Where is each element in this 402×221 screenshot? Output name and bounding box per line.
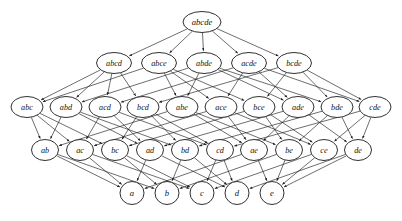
node-ce[interactable]: ce [311, 140, 338, 161]
edge-ade-to-de [309, 115, 347, 142]
node-label-ce: ce [320, 146, 328, 155]
node-ad[interactable]: ad [137, 140, 164, 161]
edge-bcde-to-bce [267, 73, 286, 97]
edge-abcde-to-abcd [129, 29, 187, 56]
node-label-ab: ab [41, 146, 49, 155]
node-label-acd: acd [99, 103, 112, 112]
edge-cde-to-de [363, 117, 371, 138]
node-label-be: be [285, 146, 293, 155]
node-e[interactable]: e [260, 182, 284, 205]
edge-bc-to-b [124, 158, 156, 185]
edge-bcde-to-bde [303, 72, 327, 97]
node-label-abde: abde [196, 59, 212, 68]
node-label-bcde: bcde [286, 59, 302, 68]
edge-abc-to-ac [37, 115, 69, 141]
edge-abcd-to-bcd [121, 73, 136, 96]
node-b[interactable]: b [155, 182, 179, 205]
edge-bde-to-be [299, 116, 327, 141]
node-d[interactable]: d [225, 182, 249, 205]
edge-bce-to-ce [270, 115, 312, 143]
node-acde[interactable]: acde [232, 53, 267, 74]
edge-abd-to-ad [79, 114, 137, 144]
node-label-bc: bc [111, 146, 119, 155]
edge-ac-to-a [89, 158, 121, 185]
node-label-ace: ace [215, 103, 227, 112]
node-bde[interactable]: bde [321, 97, 353, 118]
node-abc[interactable]: abc [11, 97, 43, 118]
edge-abce-to-ace [170, 71, 208, 98]
node-label-de: de [354, 146, 362, 155]
edge-cd-to-c [207, 160, 216, 181]
edge-abde-to-abd [82, 68, 188, 102]
node-label-abd: abd [60, 103, 73, 112]
edge-bde-to-de [342, 117, 353, 139]
node-label-abce: abce [151, 59, 167, 68]
node-de[interactable]: de [345, 140, 372, 161]
node-label-abe: abe [176, 103, 188, 112]
edge-abce-to-bce [173, 69, 244, 100]
node-label-b: b [165, 188, 170, 198]
node-abcd[interactable]: abcd [97, 53, 132, 74]
edge-acde-to-ace [228, 73, 243, 96]
node-label-acde: acde [241, 59, 257, 68]
edge-be-to-b [180, 154, 277, 188]
diagram-canvas: abcdeabcdabceabdeacdebcdeabcabdacdbcdabe… [0, 0, 402, 221]
edge-acd-to-ac [86, 117, 99, 139]
node-abce[interactable]: abce [142, 53, 177, 74]
node-abcde[interactable]: abcde [183, 12, 221, 33]
node-label-ad: ad [146, 146, 155, 155]
node-label-d: d [235, 188, 240, 198]
node-label-ac: ac [76, 146, 84, 155]
hasse-diagram-svg: abcdeabcdabceabdeacdebcdeabcabdacdbcdabe… [0, 0, 402, 221]
node-bc[interactable]: bc [102, 140, 129, 161]
edge-bd-to-d [194, 158, 226, 185]
edge-acd-to-ad [114, 116, 140, 141]
node-ae[interactable]: ae [241, 140, 268, 161]
node-abd[interactable]: abd [50, 97, 82, 118]
edge-acd-to-cd [119, 112, 206, 145]
edge-cde-to-ce [334, 115, 365, 141]
edge-abcde-to-bcde [217, 29, 278, 56]
edge-abd-to-ab [51, 117, 62, 139]
node-label-ade: ade [292, 103, 304, 112]
node-c[interactable]: c [190, 182, 214, 205]
edge-abc-to-ab [31, 117, 40, 138]
edge-abd-to-bd [80, 112, 171, 145]
node-be[interactable]: be [276, 140, 303, 161]
node-label-bd: bd [181, 146, 190, 155]
edge-abcd-to-acd [107, 74, 111, 95]
node-bcd[interactable]: bcd [127, 97, 159, 118]
node-ade[interactable]: ade [282, 97, 314, 118]
node-bd[interactable]: bd [172, 140, 199, 161]
node-a[interactable]: a [120, 182, 144, 205]
edge-acde-to-cde [264, 68, 359, 101]
node-ace[interactable]: ace [205, 97, 237, 118]
edge-abcde-to-abce [170, 31, 193, 53]
node-label-ae: ae [250, 146, 258, 155]
node-label-abc: abc [21, 103, 33, 112]
edge-abce-to-abe [164, 73, 176, 95]
edge-ae-to-a [145, 154, 242, 188]
node-label-bce: bce [253, 103, 265, 112]
node-abe[interactable]: abe [166, 97, 198, 118]
node-acd[interactable]: acd [89, 97, 121, 118]
node-label-c: c [200, 188, 204, 198]
node-label-bde: bde [331, 103, 343, 112]
node-ab[interactable]: ab [32, 140, 59, 161]
edge-acde-to-ade [259, 72, 287, 98]
edge-abcd-to-abc [41, 70, 100, 100]
node-label-cde: cde [369, 103, 381, 112]
node-abde[interactable]: abde [187, 53, 222, 74]
edge-abcde-to-acde [212, 31, 237, 53]
node-bcde[interactable]: bcde [277, 53, 312, 74]
node-label-e: e [270, 188, 274, 198]
node-label-a: a [130, 188, 134, 198]
edge-abcd-to-abd [77, 72, 105, 97]
node-bce[interactable]: bce [243, 97, 275, 118]
node-label-bcd: bcd [137, 103, 150, 112]
node-label-cd: cd [216, 146, 225, 155]
node-cde[interactable]: cde [359, 97, 391, 118]
node-cd[interactable]: cd [207, 140, 234, 161]
node-ac[interactable]: ac [67, 140, 94, 161]
edge-bcd-to-bd [152, 116, 176, 140]
